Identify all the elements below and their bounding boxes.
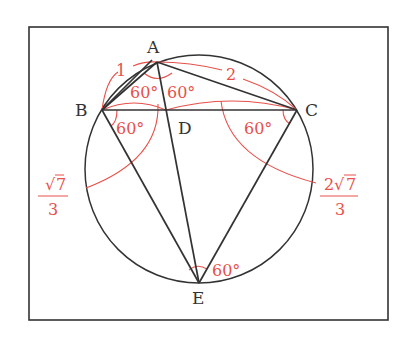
length-label-dc: 2 √ 7 3	[320, 175, 358, 219]
angle-label-bce: 60°	[244, 119, 272, 138]
point-label-a: A	[146, 37, 160, 57]
angle-arc-c	[283, 110, 290, 124]
coefficient: 2	[324, 175, 334, 194]
length-label-ac: 2	[226, 65, 236, 84]
geometry-diagram: A B C D E 1 2 60° 60° 60° 60° 60° √ 7 3 …	[0, 0, 410, 349]
angle-label-dbe: 60°	[116, 119, 144, 138]
angle-arc-a	[144, 73, 172, 79]
angle-label-bec: 60°	[212, 261, 240, 280]
angle-label-dac: 60°	[167, 83, 195, 102]
brace-bd	[102, 103, 166, 110]
radicand: 7	[346, 175, 356, 194]
sqrt-symbol: √	[334, 175, 345, 194]
leader-dc	[221, 101, 316, 183]
denominator: 3	[48, 200, 58, 219]
denominator: 3	[335, 200, 345, 219]
point-label-d: D	[178, 118, 192, 138]
brace-dc	[166, 101, 297, 110]
diagram-frame	[29, 27, 388, 320]
point-label-b: B	[75, 100, 88, 120]
circumcircle	[85, 55, 313, 283]
sqrt-symbol: √	[45, 175, 56, 194]
angle-label-bad: 60°	[130, 83, 158, 102]
point-label-c: C	[305, 100, 318, 120]
length-label-ab: 1	[116, 61, 126, 80]
length-label-bd: √ 7 3	[38, 175, 68, 219]
point-label-e: E	[192, 288, 204, 308]
radicand: 7	[56, 175, 66, 194]
